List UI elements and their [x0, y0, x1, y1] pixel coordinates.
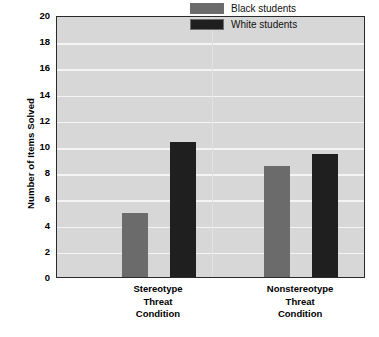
y-axis-tick-label: 4	[22, 221, 50, 231]
gridline	[57, 43, 364, 45]
x-axis-category-label-line: Threat	[83, 296, 233, 309]
gridline	[57, 96, 364, 98]
legend-label: Black students	[231, 4, 296, 14]
y-axis-tick-label: 12	[22, 116, 50, 126]
y-axis-tick-label: 14	[22, 90, 50, 100]
y-axis-tick-label: 8	[22, 168, 50, 178]
legend-label: White students	[231, 20, 297, 30]
y-axis-tick-label: 20	[22, 11, 50, 21]
bar	[170, 142, 196, 277]
vertical-divider-line	[212, 17, 214, 277]
y-axis-tick-labels: 20181614121086420	[22, 16, 50, 278]
y-axis-tick-label: 18	[22, 37, 50, 47]
bar	[122, 213, 148, 277]
y-axis-tick-label: 10	[22, 142, 50, 152]
y-axis-tick-label: 0	[22, 273, 50, 283]
x-axis-category-label-line: Nonstereotype	[225, 283, 375, 296]
legend-item: White students	[190, 19, 297, 30]
legend-swatch	[190, 3, 224, 14]
bar-chart-figure: Number of Items Solved 20181614121086420…	[0, 0, 379, 337]
x-axis-category-label-line: Condition	[83, 308, 233, 321]
bar	[264, 166, 290, 277]
x-axis-category-label: StereotypeThreatCondition	[83, 283, 233, 321]
plot-area	[56, 16, 365, 278]
gridline	[57, 122, 364, 124]
x-axis-category-label: NonstereotypeThreatCondition	[225, 283, 375, 321]
x-axis-category-label-line: Condition	[225, 308, 375, 321]
y-axis-tick-label: 16	[22, 64, 50, 74]
y-axis-tick-label: 6	[22, 195, 50, 205]
legend: Black studentsWhite students	[190, 3, 297, 30]
y-axis-tick-label: 2	[22, 247, 50, 257]
legend-swatch	[190, 19, 224, 30]
gridline	[57, 69, 364, 71]
bar	[312, 154, 338, 277]
x-axis-category-label-line: Threat	[225, 296, 375, 309]
legend-item: Black students	[190, 3, 297, 14]
x-axis-category-labels: StereotypeThreatConditionNonstereotypeTh…	[56, 283, 365, 333]
x-axis-category-label-line: Stereotype	[83, 283, 233, 296]
gridline	[57, 148, 364, 150]
